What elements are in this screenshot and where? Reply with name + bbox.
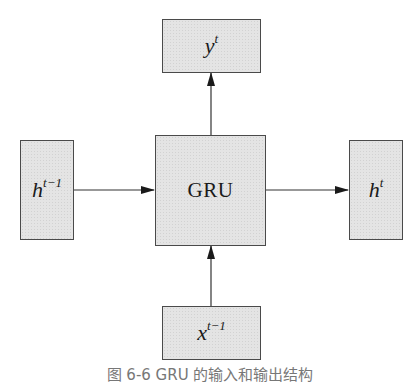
output-y-label: yt: [205, 33, 218, 59]
gru-label: GRU: [188, 178, 234, 203]
input-x-label: xt−1: [197, 320, 226, 346]
output-y-base: y: [205, 33, 215, 58]
gru-node: GRU: [155, 135, 266, 246]
output-hidden-label: ht: [369, 177, 384, 203]
output-y-node: yt: [162, 19, 261, 73]
input-x-superscript: t−1: [207, 318, 226, 333]
figure-caption: 图 6-6 GRU 的输入和输出结构: [0, 363, 420, 384]
input-hidden-node: ht−1: [20, 140, 74, 240]
output-y-superscript: t: [215, 31, 219, 46]
input-hidden-base: h: [32, 177, 43, 202]
output-hidden-superscript: t: [380, 175, 384, 190]
output-hidden-node: ht: [349, 140, 403, 240]
input-hidden-superscript: t−1: [43, 175, 62, 190]
input-x-node: xt−1: [162, 306, 261, 360]
input-x-base: x: [197, 320, 207, 345]
output-hidden-base: h: [369, 177, 380, 202]
input-hidden-label: ht−1: [32, 177, 62, 203]
